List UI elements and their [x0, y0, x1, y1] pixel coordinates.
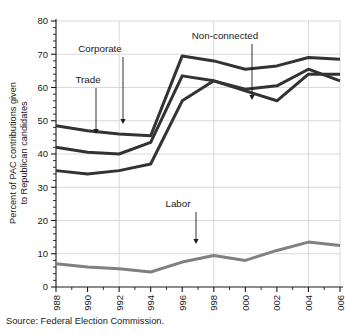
pac-contributions-line-chart: 01020304050607080 1988199019921994199619…	[0, 0, 346, 311]
x-tick-label-1998: 1998	[208, 295, 219, 311]
annotation-label-non-connected: Non-connected	[192, 30, 258, 41]
y-tick-label-70: 70	[37, 49, 48, 60]
x-tick-label-1990: 1990	[82, 295, 93, 311]
y-tick-label-30: 30	[37, 182, 48, 193]
x-tick-label-1994: 1994	[145, 295, 156, 311]
x-tick-label-1992: 1992	[114, 295, 125, 311]
y-tick-label-20: 20	[37, 215, 48, 226]
x-tick-label-1996: 1996	[177, 295, 188, 311]
y-axis-title-line1: Percent of PAC contributions given	[8, 82, 18, 224]
y-tick-label-80: 80	[37, 15, 48, 26]
y-tick-label-40: 40	[37, 148, 48, 159]
annotation-label-labor: Labor	[165, 198, 191, 209]
y-tick-labels-group: 01020304050607080	[37, 15, 48, 292]
x-tick-label-2004: 2004	[303, 295, 314, 311]
y-tick-label-50: 50	[37, 115, 48, 126]
y-tick-label-10: 10	[37, 248, 48, 259]
x-tick-label-2000: 2000	[240, 295, 251, 311]
y-axis-title-group: Percent of PAC contributions given to Re…	[8, 82, 29, 224]
x-tick-label-2006: 2006	[335, 295, 346, 311]
y-tick-label-60: 60	[37, 82, 48, 93]
x-tick-label-2002: 2002	[271, 295, 282, 311]
source-note: Source: Federal Election Commission.	[6, 316, 164, 326]
annotation-label-corporate: Corporate	[78, 43, 122, 54]
y-tick-label-0: 0	[43, 281, 48, 292]
chart-figure: 01020304050607080 1988199019921994199619…	[0, 0, 346, 335]
annotation-label-trade: Trade	[75, 74, 101, 85]
x-tick-label-1988: 1988	[51, 295, 62, 311]
y-axis-title-line2: to Republican candidates	[19, 101, 29, 205]
